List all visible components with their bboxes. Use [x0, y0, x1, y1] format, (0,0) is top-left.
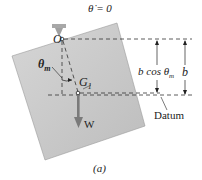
- weight-label: W: [84, 119, 94, 130]
- dimension-b: b: [182, 66, 188, 78]
- theta-dot-label: θ̇ = 0: [88, 3, 112, 14]
- center-of-gravity: [76, 91, 80, 95]
- support-ceiling: [52, 24, 66, 28]
- figure-caption: (a): [93, 163, 106, 174]
- datum-label: Datum: [154, 110, 184, 121]
- weight-arrow-shaft: [77, 95, 80, 118]
- angle-label: θm: [38, 58, 50, 73]
- pivot-label-O: O: [53, 33, 62, 45]
- diagram-canvas: [0, 0, 202, 180]
- cg-label: G1: [79, 76, 92, 91]
- dimension-b-cos-theta: b cos θm: [138, 66, 174, 80]
